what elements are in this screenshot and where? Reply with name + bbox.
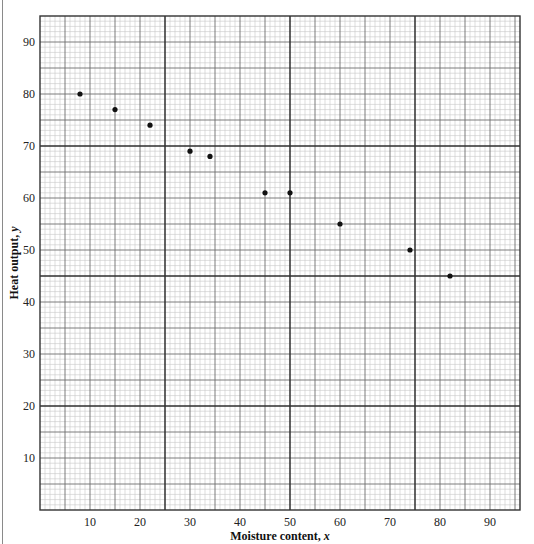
y-tick-label: 50: [23, 243, 35, 257]
x-tick-label: 70: [384, 515, 396, 529]
data-point: [77, 91, 82, 96]
y-tick-label: 70: [23, 139, 35, 153]
data-point: [147, 123, 152, 128]
x-axis-title: Moisture content, x: [230, 529, 329, 543]
data-point: [187, 149, 192, 154]
y-axis-title-text: Heat output,: [7, 232, 21, 300]
data-point: [287, 190, 292, 195]
y-tick-label: 20: [23, 399, 35, 413]
data-point: [207, 154, 212, 159]
x-tick-label: 80: [434, 515, 446, 529]
y-axis-title: Heat output, y: [7, 226, 21, 300]
y-axis-variable: y: [7, 226, 21, 234]
x-axis-ticks: 102030405060708090: [84, 515, 496, 529]
data-point: [112, 107, 117, 112]
data-point: [337, 221, 342, 226]
data-point: [407, 247, 412, 252]
data-point: [262, 190, 267, 195]
x-tick-label: 60: [334, 515, 346, 529]
y-tick-label: 90: [23, 35, 35, 49]
y-tick-label: 30: [23, 347, 35, 361]
y-tick-label: 60: [23, 191, 35, 205]
x-axis-title-text: Moisture content,: [230, 529, 323, 543]
x-tick-label: 10: [84, 515, 96, 529]
graph-paper-grid: [40, 16, 520, 510]
x-tick-label: 50: [284, 515, 296, 529]
y-tick-label: 80: [23, 87, 35, 101]
x-tick-label: 30: [184, 515, 196, 529]
scatter-chart: 102030405060708090 102030405060708090 Mo…: [0, 0, 534, 544]
y-tick-label: 40: [23, 295, 35, 309]
y-tick-label: 10: [23, 451, 35, 465]
x-tick-label: 20: [134, 515, 146, 529]
x-axis-variable: x: [323, 529, 330, 543]
data-point: [447, 273, 452, 278]
x-tick-label: 90: [484, 515, 496, 529]
x-tick-label: 40: [234, 515, 246, 529]
y-axis-ticks: 102030405060708090: [23, 35, 35, 465]
